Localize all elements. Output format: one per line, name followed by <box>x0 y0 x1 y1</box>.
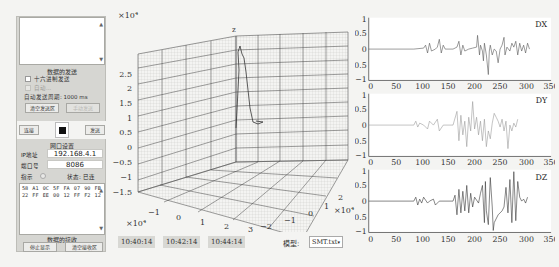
model-select[interactable]: SMT.txt▾ <box>309 236 343 248</box>
svg-text:y: y <box>293 231 299 232</box>
svg-text:0.5: 0.5 <box>119 128 132 137</box>
svg-text:−2: −2 <box>260 222 272 231</box>
svg-text:0: 0 <box>176 213 181 222</box>
svg-text:50: 50 <box>391 158 401 167</box>
port-input[interactable]: 8086 <box>47 160 103 169</box>
svg-text:−1: −1 <box>120 173 132 182</box>
svg-text:200: 200 <box>467 235 482 244</box>
dx-legend: DX <box>535 21 547 30</box>
scroll-down-icon[interactable]: ▼ <box>99 56 103 62</box>
svg-text:0: 0 <box>368 82 373 91</box>
svg-text:×10⁴: ×10⁴ <box>126 219 146 228</box>
svg-text:0: 0 <box>368 158 373 167</box>
scroll-up-icon[interactable]: ▲ <box>99 21 103 27</box>
svg-text:300: 300 <box>519 235 534 244</box>
dz-plot[interactable]: 10.50-0.5−1 050100150200250300350 DZ <box>355 167 555 245</box>
svg-text:0: 0 <box>362 45 367 54</box>
connect-button[interactable]: 连接 <box>19 125 39 135</box>
svg-text:150: 150 <box>441 235 456 244</box>
svg-text:0: 0 <box>308 209 313 218</box>
clear-send-button[interactable]: 清空发送区 <box>25 103 59 113</box>
send-button[interactable]: 发送 <box>85 125 105 135</box>
svg-text:−0.5: −0.5 <box>113 158 132 167</box>
connection-indicator-icon <box>55 122 69 138</box>
svg-text:1.5: 1.5 <box>119 99 132 108</box>
clear-receive-button[interactable]: 清空接收区 <box>65 242 103 252</box>
svg-text:0: 0 <box>127 143 132 152</box>
control-panel: ▲ ▼ 数据的发送 十六进制发送 自动... 自动发送周期: 1000 ms 清… <box>16 16 106 252</box>
svg-text:−1: −1 <box>355 151 367 160</box>
send-textarea[interactable]: ▲ ▼ <box>19 17 105 65</box>
receive-footer: 数据的接收 停止显示 清空接收区 <box>17 235 107 253</box>
svg-text:×10⁴: ×10⁴ <box>334 206 354 215</box>
time-button-2[interactable]: 10:42:14 <box>163 236 200 248</box>
dx-plot[interactable]: 10.50-0.5−1 050100150200250300350 DX <box>355 15 555 91</box>
receive-textarea[interactable]: 58 A1 0C 5F FA 07 90 FB 22 FF EE 00 12 F… <box>19 183 105 235</box>
ip-address-input[interactable]: 192.168.4.1 <box>47 149 103 158</box>
time-button-3[interactable]: 10:44:14 <box>208 236 245 248</box>
svg-text:2: 2 <box>224 222 229 231</box>
auto-send-checkbox[interactable]: 自动... <box>25 84 51 92</box>
svg-text:3: 3 <box>248 225 253 232</box>
svg-text:200: 200 <box>467 158 482 167</box>
network-settings: 网口设置 IP地址 192.168.4.1 端口号 8086 指示 状态: 已连 <box>17 141 107 181</box>
svg-text:350: 350 <box>544 158 555 167</box>
svg-text:250: 250 <box>493 235 508 244</box>
svg-text:x: x <box>206 231 211 232</box>
model-selected-value: SMT.txt <box>312 238 337 246</box>
scroll-up-icon[interactable]: ▲ <box>99 187 103 194</box>
svg-text:0: 0 <box>368 235 373 244</box>
checkbox-box[interactable] <box>25 76 31 82</box>
checkbox-box[interactable] <box>25 85 31 91</box>
svg-text:300: 300 <box>519 82 534 91</box>
svg-text:0.5: 0.5 <box>355 29 367 38</box>
svg-text:200: 200 <box>467 82 482 91</box>
svg-text:1: 1 <box>324 202 329 211</box>
svg-text:350: 350 <box>544 82 555 91</box>
svg-text:150: 150 <box>441 158 456 167</box>
svg-text:−1: −1 <box>355 227 367 236</box>
connect-row: 连接 发送 <box>17 121 107 139</box>
svg-text:0: 0 <box>362 197 367 206</box>
hex-send-checkbox[interactable]: 十六进制发送 <box>25 75 70 83</box>
svg-text:1: 1 <box>127 114 132 123</box>
svg-text:1: 1 <box>362 167 367 176</box>
svg-text:100: 100 <box>415 235 430 244</box>
svg-text:-0.5: -0.5 <box>355 213 367 222</box>
svg-text:250: 250 <box>493 82 508 91</box>
manual-send-button[interactable]: 手动发送 <box>66 103 100 113</box>
svg-text:1: 1 <box>362 91 367 100</box>
status-led-icon <box>40 173 46 179</box>
time-button-1[interactable]: 10:40:14 <box>118 236 155 248</box>
svg-text:150: 150 <box>441 82 456 91</box>
model-label: 模型: <box>283 238 299 248</box>
ip-label: IP地址 <box>21 151 38 159</box>
receive-content: 58 A1 0C 5F FA 07 90 FB 22 FF EE 00 12 F… <box>22 185 101 198</box>
dy-legend: DY <box>536 97 548 106</box>
svg-text:×10⁴: ×10⁴ <box>118 11 138 20</box>
svg-text:−1: −1 <box>148 208 160 217</box>
svg-text:300: 300 <box>519 158 534 167</box>
svg-text:350: 350 <box>544 235 555 244</box>
svg-text:50: 50 <box>391 82 401 91</box>
svg-text:-0.5: -0.5 <box>355 137 367 146</box>
svg-text:1: 1 <box>362 15 367 24</box>
svg-text:−1: −1 <box>355 75 367 84</box>
svg-text:-0.5: -0.5 <box>355 61 367 70</box>
svg-text:−1: −1 <box>284 216 296 225</box>
auto-label: 自动... <box>34 84 51 92</box>
svg-text:−1.5: −1.5 <box>113 188 132 197</box>
svg-text:0: 0 <box>362 121 367 130</box>
svg-text:250: 250 <box>493 158 508 167</box>
displacement-plots: 10.50-0.5−1 050100150200250300350 DX 10.… <box>355 15 559 245</box>
scroll-down-icon[interactable]: ▼ <box>99 225 103 232</box>
trajectory-3d-plot[interactable]: ×10⁴ 2.5 2 1.5 1 0.5 0 −0.5 −1 −1.5 −1 0… <box>108 10 360 232</box>
svg-text:z: z <box>232 26 236 34</box>
auto-period-text: 自动发送周期: 1000 ms <box>24 93 88 101</box>
stop-display-button[interactable]: 停止显示 <box>23 242 57 252</box>
dy-plot[interactable]: 10.50-0.5−1 050100150200250300350 DY <box>355 91 555 167</box>
svg-text:100: 100 <box>415 82 430 91</box>
chevron-down-icon: ▾ <box>337 239 340 245</box>
dz-legend: DZ <box>535 173 547 182</box>
hex-send-label: 十六进制发送 <box>34 75 70 83</box>
